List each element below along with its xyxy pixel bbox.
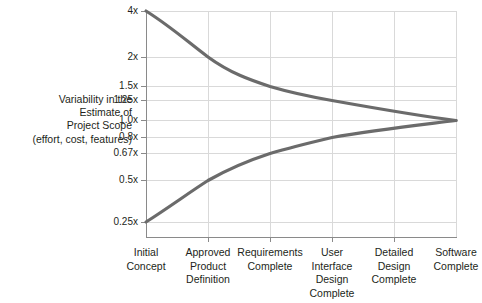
xtick-label-line: Complete [356, 273, 432, 287]
ytick-label-1-0x: 1.0x [98, 115, 138, 125]
lower-bound-curve [146, 121, 456, 223]
ytick-label-1-25x: 1.25x [98, 95, 138, 105]
y-axis-ticks [141, 12, 146, 223]
ytick-label-0-25x: 0.25x [98, 217, 138, 227]
ytick-label-0-8x: 0.8x [98, 132, 138, 142]
ytick-label-4x: 4x [98, 6, 138, 16]
ytick-label-2x: 2x [98, 52, 138, 62]
ytick-label-1-5x: 1.5x [98, 81, 138, 91]
xtick-label-line: Complete [418, 260, 482, 274]
ytick-label-0-5x: 0.5x [98, 175, 138, 185]
cone-of-uncertainty-chart: Variability in the Estimate of Project S… [0, 0, 482, 303]
xtick-label-software-complete: Software Complete [418, 246, 482, 273]
xtick-label-line: Definition [170, 273, 246, 287]
xtick-label-line: Complete [294, 287, 370, 301]
ytick-label-0-67x: 0.67x [98, 148, 138, 158]
xtick-label-line: Software [418, 246, 482, 260]
upper-bound-curve [146, 11, 456, 121]
